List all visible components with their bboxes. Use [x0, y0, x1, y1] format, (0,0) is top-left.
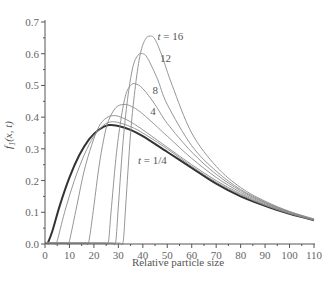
- y-tick-label: 0.1: [25, 206, 39, 218]
- y-tick-label: 0.7: [25, 16, 39, 28]
- x-tick-label: 110: [306, 249, 323, 261]
- x-tick-label: 90: [260, 249, 272, 261]
- y-tick-label: 0.6: [25, 48, 39, 60]
- curve-label: 12: [160, 52, 171, 64]
- axes: [45, 20, 315, 244]
- curve-label: 4: [150, 105, 156, 117]
- y-tick-label: 0.2: [25, 175, 39, 187]
- x-axis-title: Relative particle size: [132, 256, 224, 268]
- curve-label: t = 1/4: [138, 154, 167, 166]
- curves: [45, 36, 314, 245]
- x-tick-label: 100: [281, 249, 298, 261]
- x-tick-label: 30: [113, 249, 125, 261]
- chart: 0.00.10.20.30.40.50.60.7 010203040506070…: [0, 0, 334, 283]
- y-ticks: 0.00.10.20.30.40.50.60.7: [25, 16, 45, 250]
- y-tick-label: 0.4: [25, 111, 39, 123]
- y-tick-label: 0.5: [25, 79, 39, 91]
- curve-series-2: [67, 116, 314, 245]
- y-axis-title-args: (x, t): [2, 121, 15, 142]
- y-tick-label: 0.0: [25, 238, 39, 250]
- curve-series-0: [47, 125, 314, 244]
- curve-label: 8: [153, 84, 159, 96]
- curve-label: t = 16: [157, 30, 183, 42]
- x-tick-label: 80: [235, 249, 247, 261]
- x-tick-label: 10: [64, 249, 76, 261]
- curve-series-5: [114, 53, 315, 244]
- x-tick-label: 0: [42, 249, 48, 261]
- y-tick-label: 0.3: [25, 143, 39, 155]
- y-axis-title: f1(x, t): [2, 121, 17, 149]
- x-tick-label: 20: [88, 249, 100, 261]
